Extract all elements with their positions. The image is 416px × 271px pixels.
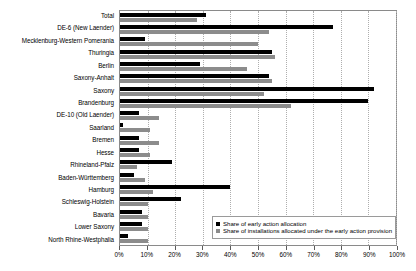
category-label: Lower Saxony <box>0 221 117 233</box>
legend-swatch-icon <box>216 229 220 233</box>
category-label: Berlin <box>0 60 117 72</box>
category-label: Hamburg <box>0 184 117 196</box>
x-axis-tick-labels: 0%10%20%30%40%50%60%70%80%90%100% <box>119 251 397 263</box>
bar-row <box>120 196 396 208</box>
bar-row <box>120 36 396 48</box>
bar-spacer <box>120 201 396 202</box>
bar-row <box>120 110 396 122</box>
x-tick-label: 0% <box>114 251 123 258</box>
bar-spacer <box>120 177 396 178</box>
bar-segment <box>120 116 159 120</box>
bar-segment <box>120 104 291 108</box>
bar-row <box>120 146 396 158</box>
bar-row <box>120 85 396 97</box>
bar-segment <box>120 67 247 71</box>
axis-tick <box>286 246 287 250</box>
bar-segment <box>120 202 148 206</box>
bar-segment <box>120 18 197 22</box>
bar-row <box>120 97 396 109</box>
bar-segment <box>120 92 264 96</box>
axis-tick <box>147 246 148 250</box>
chart-legend: Share of early action allocationShare of… <box>212 216 396 239</box>
axis-tick <box>202 246 203 250</box>
category-label: DE-6 (New Laender) <box>0 22 117 34</box>
axis-tick <box>341 246 342 250</box>
bar-row <box>120 60 396 72</box>
legend-item[interactable]: Share of installations allocated under t… <box>216 228 392 234</box>
x-tick-label: 100% <box>389 251 405 258</box>
category-label: Saxony <box>0 85 117 97</box>
bar-segment <box>120 153 150 157</box>
bar-spacer <box>120 164 396 165</box>
category-label: Total <box>0 10 117 22</box>
x-tick-label: 30% <box>196 251 209 258</box>
bar-segment <box>120 128 150 132</box>
category-label: Bremen <box>0 134 117 146</box>
category-label: Hesse <box>0 147 117 159</box>
bar-segment <box>120 239 148 243</box>
bar-segment <box>120 30 269 34</box>
legend-label: Share of early action allocation <box>223 221 306 227</box>
legend-label: Share of installations allocated under t… <box>223 228 392 234</box>
bar-segment <box>120 42 258 46</box>
bar-row <box>120 122 396 134</box>
category-label: Saxony-Anhalt <box>0 72 117 84</box>
legend-item[interactable]: Share of early action allocation <box>216 221 392 227</box>
bar-spacer <box>120 115 396 116</box>
bar-spacer <box>120 189 396 190</box>
category-label: DE-10 (Old Laender) <box>0 109 117 121</box>
category-label: Mecklenburg-Western Pomerania <box>0 35 117 47</box>
category-label: Schleswig-Holstein <box>0 196 117 208</box>
bar-row <box>120 183 396 195</box>
x-tick-label: 70% <box>307 251 320 258</box>
x-tick-label: 10% <box>140 251 153 258</box>
bar-segment <box>120 55 275 59</box>
axis-tick <box>397 246 398 250</box>
category-label: North Rhine-Westphalia <box>0 234 117 246</box>
category-axis-labels: TotalDE-6 (New Laender)Mecklenburg-Weste… <box>0 10 117 246</box>
bar-segment <box>120 178 145 182</box>
x-tick-label: 50% <box>252 251 265 258</box>
bar-segment <box>120 141 159 145</box>
category-label: Thuringia <box>0 47 117 59</box>
category-label: Brandenburg <box>0 97 117 109</box>
bar-row <box>120 48 396 60</box>
category-label: Saarland <box>0 122 117 134</box>
bar-rows <box>120 11 396 245</box>
bar-row <box>120 134 396 146</box>
axis-tick <box>314 246 315 250</box>
bar-spacer <box>120 152 396 153</box>
axis-tick <box>369 246 370 250</box>
bar-row <box>120 11 396 23</box>
x-axis-ticks <box>119 246 397 250</box>
bar-spacer <box>120 214 396 215</box>
x-tick-label: 40% <box>224 251 237 258</box>
x-tick-label: 90% <box>363 251 376 258</box>
axis-tick <box>258 246 259 250</box>
legend-swatch-icon <box>216 222 220 226</box>
bar-segment <box>120 165 137 169</box>
bar-row <box>120 23 396 35</box>
axis-tick <box>175 246 176 250</box>
bar-segment <box>120 190 153 194</box>
category-label: Baden-Württemberg <box>0 171 117 183</box>
bar-segment <box>120 79 272 83</box>
plot-area <box>119 10 397 246</box>
bar-segment <box>120 215 148 219</box>
axis-tick <box>230 246 231 250</box>
bar-row <box>120 171 396 183</box>
category-label: Bavaria <box>0 209 117 221</box>
gridline <box>396 11 397 245</box>
x-tick-label: 60% <box>279 251 292 258</box>
bar-spacer <box>120 127 396 128</box>
bar-chart: TotalDE-6 (New Laender)Mecklenburg-Weste… <box>0 0 416 271</box>
bar-segment <box>120 227 148 231</box>
category-label: Rhineland-Pfalz <box>0 159 117 171</box>
bar-row <box>120 73 396 85</box>
axis-tick <box>119 246 120 250</box>
x-tick-label: 80% <box>335 251 348 258</box>
x-tick-label: 20% <box>168 251 181 258</box>
bar-row <box>120 159 396 171</box>
bar-spacer <box>120 140 396 141</box>
